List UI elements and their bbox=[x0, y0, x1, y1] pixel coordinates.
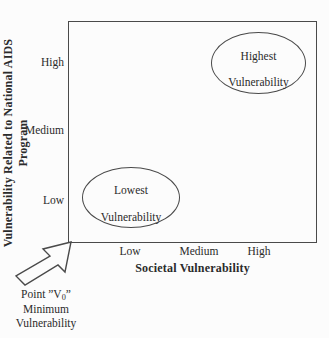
origin-callout-line3: Vulnerability bbox=[0, 317, 92, 331]
vulnerability-matrix-figure: High Medium Low Low Medium High Societal… bbox=[0, 0, 329, 338]
x-axis-title: Societal Vulnerability bbox=[68, 261, 317, 276]
origin-callout-line1-suffix: ” bbox=[66, 288, 71, 300]
x-tick-low-label: Low bbox=[119, 246, 140, 258]
bubble-highest-vulnerability: Highest Vulnerability bbox=[211, 32, 306, 94]
bubble-highest-line2: Vulnerability bbox=[228, 76, 289, 88]
y-tick-low-label: Low bbox=[43, 195, 64, 207]
y-tick-high-label: High bbox=[41, 57, 64, 69]
x-tick-high-label: High bbox=[248, 246, 271, 258]
bubble-lowest-vulnerability-label: Lowest Vulnerability bbox=[101, 171, 162, 224]
origin-callout-line1: Point ”V0” bbox=[0, 288, 92, 303]
origin-callout-line2: Minimum bbox=[0, 303, 92, 317]
bubble-highest-line1: Highest bbox=[241, 50, 277, 62]
x-tick-medium-label: Medium bbox=[180, 246, 219, 258]
bubble-lowest-vulnerability: Lowest Vulnerability bbox=[82, 167, 180, 228]
bubble-lowest-line2: Vulnerability bbox=[101, 211, 162, 223]
origin-callout-text: Point ”V0” Minimum Vulnerability bbox=[0, 288, 92, 330]
origin-callout-line1-prefix: Point ”V bbox=[21, 288, 62, 300]
bubble-lowest-line1: Lowest bbox=[114, 184, 148, 196]
origin-arrow-icon bbox=[13, 240, 75, 288]
y-axis-title: Vulnerability Related to National AIDS P… bbox=[1, 27, 31, 259]
bubble-highest-vulnerability-label: Highest Vulnerability bbox=[228, 36, 289, 89]
